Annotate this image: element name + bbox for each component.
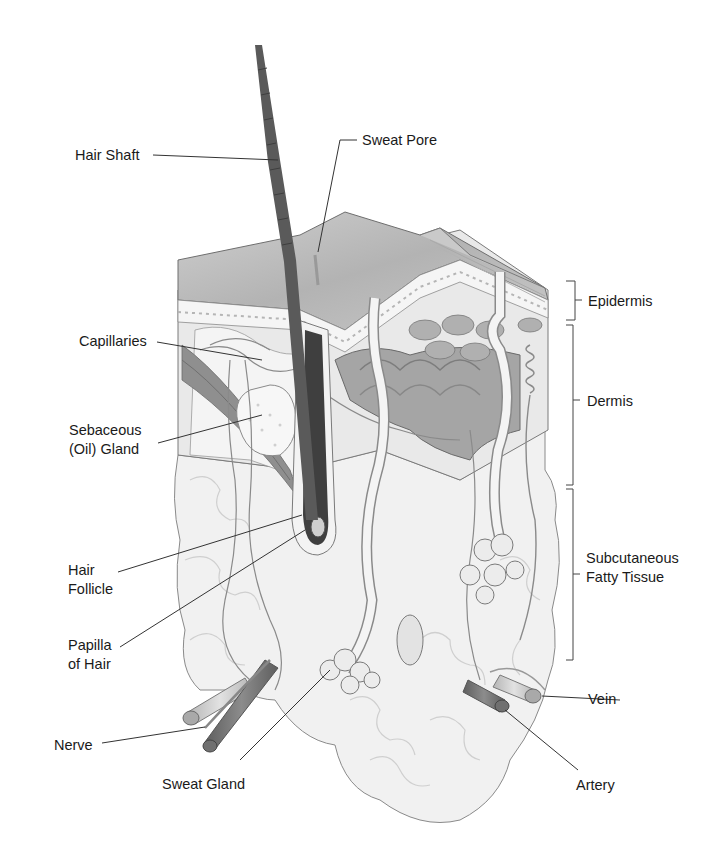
label-dermis: Dermis [587, 392, 633, 411]
label-hair-follicle-line2: Follicle [68, 580, 113, 599]
label-vein: Vein [588, 690, 616, 709]
label-capillaries: Capillaries [79, 332, 147, 351]
label-subcutaneous-line2: Fatty Tissue [586, 568, 679, 587]
label-subcutaneous-fatty-tissue: Subcutaneous Fatty Tissue [586, 549, 679, 587]
label-sebaceous-line1: Sebaceous [69, 421, 142, 440]
label-papilla-of-hair: Papilla of Hair [68, 636, 112, 674]
label-sweat-gland: Sweat Gland [162, 775, 245, 794]
label-papilla-line1: Papilla [68, 636, 112, 655]
label-sebaceous-gland: Sebaceous (Oil) Gland [69, 421, 142, 459]
label-hair-follicle-line1: Hair [68, 561, 113, 580]
label-artery: Artery [576, 776, 615, 795]
layer-brackets [566, 281, 582, 660]
label-epidermis: Epidermis [588, 292, 652, 311]
label-subcutaneous-line1: Subcutaneous [586, 549, 679, 568]
label-hair-follicle: Hair Follicle [68, 561, 113, 599]
label-sebaceous-line2: (Oil) Gland [69, 440, 142, 459]
label-sweat-pore: Sweat Pore [362, 131, 437, 150]
label-nerve: Nerve [54, 736, 93, 755]
label-papilla-line2: of Hair [68, 655, 112, 674]
label-hair-shaft: Hair Shaft [75, 146, 139, 165]
